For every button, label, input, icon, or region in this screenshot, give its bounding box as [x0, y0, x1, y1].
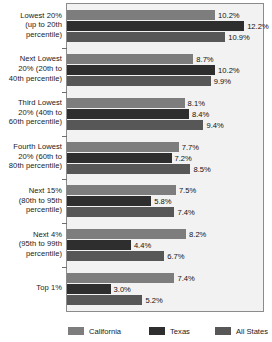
bar-row: 9.4%: [67, 120, 263, 130]
bar-value-label: 9.9%: [211, 76, 231, 85]
legend-item-california[interactable]: California: [68, 327, 121, 336]
axis-tick: [62, 136, 67, 137]
bar-row: 10.2%: [67, 10, 263, 20]
category-label-line: percentile): [0, 30, 62, 40]
bar-texas: [67, 196, 151, 206]
bar-value-label: 8.7%: [193, 54, 213, 63]
bar-california: [67, 98, 185, 108]
bar-value-label: 5.2%: [142, 296, 162, 305]
category-label-line: 60th percentile): [0, 117, 62, 127]
legend-item-all-states[interactable]: All States: [215, 327, 268, 336]
category-label-line: percentile): [0, 249, 62, 259]
bar-row: 6.7%: [67, 251, 263, 261]
legend-swatch-icon: [215, 327, 231, 335]
bar-row: 7.2%: [67, 153, 263, 163]
bar-all-states: [67, 251, 164, 261]
bar-row: 7.4%: [67, 207, 263, 217]
bar-row: 10.2%: [67, 65, 263, 75]
axis-tick: [62, 92, 67, 93]
bar-california: [67, 142, 179, 152]
bar-texas: [67, 240, 131, 250]
bar-value-label: 7.4%: [174, 274, 194, 283]
bar-value-label: 10.2%: [215, 65, 240, 74]
bar-row: 10.9%: [67, 32, 263, 42]
chart-legend: CaliforniaTexasAll States: [66, 324, 266, 338]
bar-california: [67, 273, 174, 283]
category-label-line: Next Lowest: [0, 54, 62, 64]
bar-row: 7.7%: [67, 142, 263, 152]
category-label-line: percentile): [0, 205, 62, 215]
axis-tick: [62, 223, 67, 224]
category-label-line: Fourth Lowest: [0, 142, 62, 152]
category-label-line: Top 1%: [0, 283, 62, 293]
bar-california: [67, 54, 193, 64]
bar-all-states: [67, 295, 142, 305]
bar-row: 9.9%: [67, 76, 263, 86]
bar-row: 8.1%: [67, 98, 263, 108]
axis-tick: [62, 48, 67, 49]
category-label: Next Lowest20% (20th to40th percentile): [0, 54, 62, 83]
legend-swatch-icon: [68, 327, 84, 335]
bar-value-label: 4.4%: [131, 241, 151, 250]
bar-row: 8.4%: [67, 109, 263, 119]
axis-tick: [62, 267, 67, 268]
bar-row: 5.2%: [67, 295, 263, 305]
bar-row: 7.5%: [67, 185, 263, 195]
bar-value-label: 3.0%: [111, 285, 131, 294]
category-label-line: Third Lowest: [0, 98, 62, 108]
category-label-line: (80th to 95th: [0, 196, 62, 206]
bar-value-label: 10.9%: [225, 32, 250, 41]
bar-row: 7.4%: [67, 273, 263, 283]
legend-item-texas[interactable]: Texas: [149, 327, 190, 336]
bar-all-states: [67, 76, 211, 86]
bar-all-states: [67, 207, 174, 217]
bar-texas: [67, 21, 244, 31]
bar-value-label: 12.2%: [244, 21, 269, 30]
bar-california: [67, 185, 176, 195]
category-label-line: 20% (60th to: [0, 152, 62, 162]
bar-texas: [67, 65, 215, 75]
bar-row: 12.2%: [67, 21, 263, 31]
bar-all-states: [67, 32, 225, 42]
category-label-line: (up to 20th: [0, 20, 62, 30]
legend-label: All States: [236, 327, 268, 336]
bar-value-label: 8.2%: [186, 230, 206, 239]
bar-california: [67, 229, 186, 239]
bar-row: 3.0%: [67, 284, 263, 294]
bar-all-states: [67, 164, 190, 174]
category-label: Third Lowest20% (40th to60th percentile): [0, 98, 62, 127]
legend-label: California: [89, 327, 121, 336]
legend-label: Texas: [170, 327, 190, 336]
category-label-line: (95th to 99th: [0, 239, 62, 249]
bar-value-label: 6.7%: [164, 252, 184, 261]
bar-value-label: 10.2%: [215, 10, 240, 19]
category-label-line: 40th percentile): [0, 74, 62, 84]
bar-value-label: 7.2%: [172, 153, 192, 162]
category-label-line: 80th percentile): [0, 161, 62, 171]
category-label-line: Next 15%: [0, 186, 62, 196]
category-label: Next 15%(80th to 95thpercentile): [0, 186, 62, 215]
bar-all-states: [67, 120, 203, 130]
category-label: Lowest 20%(up to 20thpercentile): [0, 11, 62, 40]
bar-row: 8.2%: [67, 229, 263, 239]
bar-texas: [67, 284, 111, 294]
bar-value-label: 8.4%: [189, 109, 209, 118]
bar-california: [67, 10, 215, 20]
category-label: Fourth Lowest20% (60th to80th percentile…: [0, 142, 62, 171]
bar-value-label: 5.8%: [151, 197, 171, 206]
bar-row: 4.4%: [67, 240, 263, 250]
category-label-line: Lowest 20%: [0, 11, 62, 21]
bar-value-label: 8.1%: [185, 98, 205, 107]
bar-row: 8.5%: [67, 164, 263, 174]
category-label: Next 4%(95th to 99thpercentile): [0, 230, 62, 259]
category-label: Top 1%: [0, 283, 62, 293]
bar-row: 8.7%: [67, 54, 263, 64]
category-label-line: 20% (40th to: [0, 108, 62, 118]
legend-swatch-icon: [149, 327, 165, 335]
bar-texas: [67, 109, 189, 119]
category-label-line: Next 4%: [0, 230, 62, 240]
category-label-line: 20% (20th to: [0, 64, 62, 74]
bar-value-label: 7.4%: [174, 208, 194, 217]
axis-tick: [62, 179, 67, 180]
bar-value-label: 7.5%: [176, 186, 196, 195]
